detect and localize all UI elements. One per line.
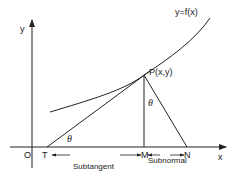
x-axis-label: x	[218, 152, 223, 162]
point-p-label: P(x,y)	[149, 67, 173, 77]
curve-fx	[50, 18, 210, 112]
origin-label: O	[24, 150, 31, 160]
angle-theta-tangent: θ	[67, 133, 72, 144]
y-axis-label: y	[20, 24, 25, 34]
angle-theta-normal: θ	[148, 97, 153, 108]
normal-line	[144, 75, 187, 147]
subnormal-label: Subnormal	[148, 156, 187, 165]
curve-label: y=f(x)	[175, 7, 198, 17]
subtangent-label: Subtangent	[73, 162, 115, 171]
subtangent-subnormal-diagram: y x O T M N y=f(x) P(x,y) θ θ Subtangent…	[0, 0, 237, 178]
point-t-label: T	[42, 150, 48, 160]
tangent-line	[47, 71, 150, 147]
